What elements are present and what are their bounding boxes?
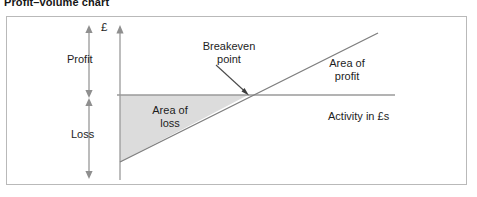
x-axis-label: Activity in £s	[328, 110, 389, 123]
area-of-loss-label-line2: loss	[137, 117, 203, 130]
area-of-loss-label-line1: Area of	[137, 104, 203, 117]
profit-loss-range-arrow	[85, 25, 92, 179]
area-of-profit-label: Area of profit	[316, 57, 378, 83]
breakeven-callout-arrow	[216, 65, 249, 96]
profit-volume-figure: Profit–volume chart	[0, 0, 477, 197]
breakeven-point-label-line2: point	[186, 53, 272, 66]
profit-range-label: Profit	[67, 53, 93, 66]
breakeven-point-label-line1: Breakeven	[186, 40, 272, 53]
area-of-profit-label-line1: Area of	[316, 57, 378, 70]
y-axis-label: £	[101, 21, 107, 34]
area-of-profit-label-line2: profit	[316, 70, 378, 83]
area-of-loss-label: Area of loss	[137, 104, 203, 130]
breakeven-point-label: Breakeven point	[186, 40, 272, 66]
chart-drawing	[0, 0, 477, 197]
loss-range-label: Loss	[71, 128, 94, 141]
